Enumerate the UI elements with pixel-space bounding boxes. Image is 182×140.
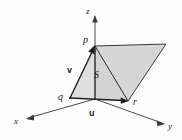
point-label-r: r [133,97,137,107]
z-axis-arrowhead [92,15,98,23]
vertex-q-dot [69,97,71,99]
region-label-S: S [94,70,99,80]
figure-canvas [0,0,182,140]
point-label-q: q [58,92,63,102]
axis-label-y: y [168,122,172,131]
vector-label-u: u [89,109,95,118]
vector-parallelogram-figure: x y z p q r S u v [0,0,182,140]
axis-label-z: z [86,7,90,16]
y-axis-arrowhead [157,121,166,127]
x-axis-arrowhead [26,115,34,121]
vector-v-arrowhead [88,45,95,54]
point-label-p: p [83,35,88,45]
axis-label-x: x [14,117,18,126]
y-axis-line [95,99,162,123]
vector-label-v: v [67,66,72,75]
